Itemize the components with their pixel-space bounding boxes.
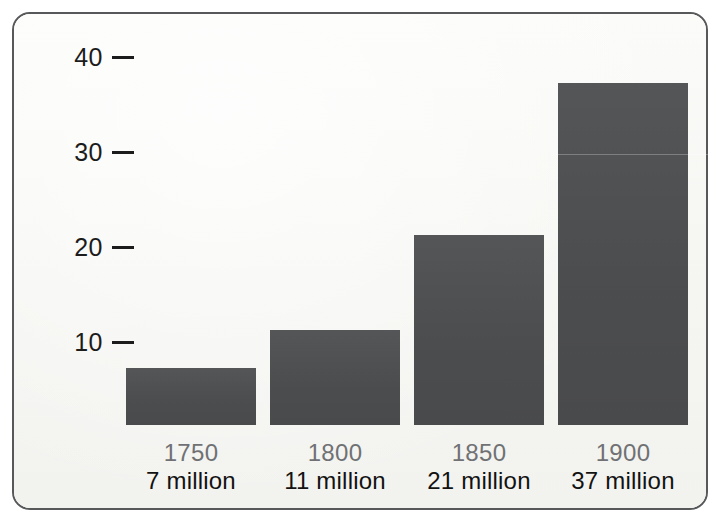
x-axis-year-label: 1750 bbox=[117, 440, 265, 466]
x-axis-category-1800: 1800 11 million bbox=[261, 440, 409, 494]
bar-1800 bbox=[270, 330, 400, 425]
bar-sheen bbox=[558, 83, 688, 425]
x-axis-year-label: 1800 bbox=[261, 440, 409, 466]
bar-1850 bbox=[414, 235, 544, 425]
y-axis-tick-mark-icon bbox=[112, 341, 134, 344]
bar-1750 bbox=[126, 368, 256, 425]
y-axis-tick-label: 40 bbox=[74, 45, 103, 70]
x-axis-category-1850: 1850 21 million bbox=[405, 440, 553, 494]
x-axis-population-label: 11 million bbox=[261, 468, 409, 494]
y-axis-tick-label: 30 bbox=[74, 140, 103, 165]
chart-panel-frame: 40 30 20 10 1750 bbox=[12, 12, 708, 510]
x-axis-population-label: 21 million bbox=[405, 468, 553, 494]
x-axis-category-1750: 1750 7 million bbox=[117, 440, 265, 494]
x-axis-year-label: 1900 bbox=[549, 440, 697, 466]
y-axis-tick-30: 30 bbox=[62, 140, 134, 164]
plot-area: 40 30 20 10 1750 bbox=[14, 14, 710, 512]
x-axis-population-label: 37 million bbox=[549, 468, 697, 494]
bar-sheen bbox=[414, 235, 544, 425]
y-axis-tick-label: 20 bbox=[74, 235, 103, 260]
x-axis-population-label: 7 million bbox=[117, 468, 265, 494]
y-axis-tick-10: 10 bbox=[62, 330, 134, 354]
y-axis-tick-20: 20 bbox=[62, 235, 134, 259]
bar-sheen bbox=[270, 330, 400, 425]
x-axis-year-label: 1850 bbox=[405, 440, 553, 466]
bar-1900 bbox=[558, 83, 688, 425]
y-axis-tick-mark-icon bbox=[112, 56, 134, 59]
bar-chart-figure: 40 30 20 10 1750 bbox=[0, 0, 719, 522]
y-axis-tick-label: 10 bbox=[74, 330, 103, 355]
bar-sheen bbox=[126, 368, 256, 425]
y-axis-tick-40: 40 bbox=[62, 45, 134, 69]
y-axis-tick-mark-icon bbox=[112, 246, 134, 249]
x-axis-category-1900: 1900 37 million bbox=[549, 440, 697, 494]
y-axis-tick-mark-icon bbox=[112, 151, 134, 154]
